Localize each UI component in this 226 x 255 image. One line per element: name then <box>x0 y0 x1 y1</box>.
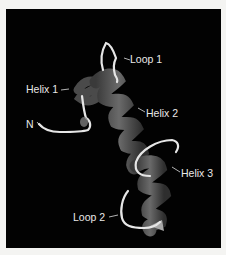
label-helix-2: Helix 2 <box>146 107 178 119</box>
helix-3-ribbon <box>136 162 164 231</box>
helix-3-leader <box>172 167 180 172</box>
label-helix-1: Helix 1 <box>26 83 58 95</box>
loop-2-leader <box>109 215 118 217</box>
label-n-terminus: N <box>26 118 34 130</box>
label-helix-3: Helix 3 <box>181 167 213 179</box>
helix-1-leader <box>61 89 69 90</box>
label-loop-1: Loop 1 <box>130 53 162 65</box>
protein-structure-diagram: Loop 1 Helix 1 Helix 2 N Helix 3 Loop 2 <box>0 0 226 255</box>
helix-2-leader <box>138 108 145 112</box>
helix-2-ribbon <box>96 75 142 168</box>
label-loop-2: Loop 2 <box>73 211 105 223</box>
